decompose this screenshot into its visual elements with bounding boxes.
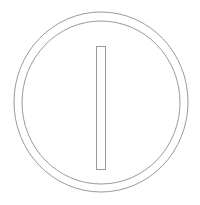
power-on-switch-icon — [0, 0, 200, 205]
outer-ring — [14, 12, 188, 192]
inner-ring — [22, 21, 180, 184]
icon-canvas: On — [0, 0, 200, 205]
on-bar — [97, 47, 106, 170]
